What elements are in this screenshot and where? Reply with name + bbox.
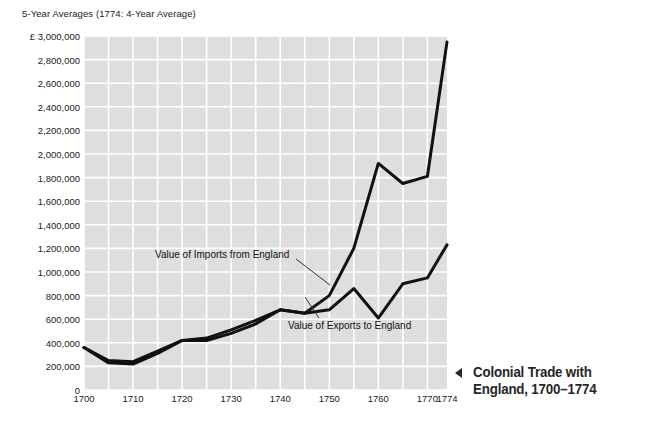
y-tick-label: 800,000 xyxy=(2,290,80,301)
x-axis: 170017101720173017401750176017701774 xyxy=(84,393,447,411)
y-tick-label: 0 xyxy=(2,385,80,396)
y-tick-label: £ 3,000,000 xyxy=(2,31,80,42)
plot-area xyxy=(84,36,447,390)
figure-caption: Colonial Trade with England, 1700–1774 xyxy=(473,364,634,398)
caption-line-1: Colonial Trade with xyxy=(473,364,634,381)
y-tick-label: 2,000,000 xyxy=(2,149,80,160)
series-label-imports: Value of Imports from England xyxy=(155,249,289,260)
y-tick-label: 1,400,000 xyxy=(2,219,80,230)
caption-line-2: England, 1700–1774 xyxy=(473,381,634,398)
x-tick-label: 1720 xyxy=(172,393,193,404)
y-tick-label: 1,800,000 xyxy=(2,172,80,183)
y-tick-label: 1,600,000 xyxy=(2,196,80,207)
y-tick-label: 2,800,000 xyxy=(2,54,80,65)
y-tick-label: 200,000 xyxy=(2,361,80,372)
y-tick-label: 600,000 xyxy=(2,314,80,325)
y-tick-label: 400,000 xyxy=(2,337,80,348)
x-tick-label: 1750 xyxy=(319,393,340,404)
x-tick-label: 1760 xyxy=(368,393,389,404)
y-axis: 0200,000400,000600,000800,0001,000,0001,… xyxy=(0,36,80,390)
x-tick-label: 1710 xyxy=(122,393,143,404)
y-tick-label: 2,200,000 xyxy=(2,125,80,136)
y-tick-label: 1,000,000 xyxy=(2,267,80,278)
y-tick-label: 2,400,000 xyxy=(2,101,80,112)
x-tick-label: 1730 xyxy=(221,393,242,404)
caption-arrow-icon xyxy=(455,368,462,378)
chart-figure: 5-Year Averages (1774: 4-Year Average) 0… xyxy=(0,0,652,422)
x-tick-label: 1740 xyxy=(270,393,291,404)
y-tick-label: 2,600,000 xyxy=(2,78,80,89)
series-label-exports: Value of Exports to England xyxy=(288,320,411,331)
x-tick-label: 1774 xyxy=(436,393,457,404)
x-tick-label: 1770 xyxy=(417,393,438,404)
series-layer xyxy=(84,36,447,390)
series-line-exports xyxy=(84,245,447,362)
x-tick-label: 1700 xyxy=(73,393,94,404)
chart-title: 5-Year Averages (1774: 4-Year Average) xyxy=(22,8,196,19)
y-tick-label: 1,200,000 xyxy=(2,243,80,254)
